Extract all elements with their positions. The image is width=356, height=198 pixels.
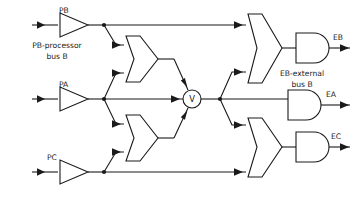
or-gate-top-group (126, 36, 188, 90)
wire-merge-to-or-ec (220, 99, 246, 125)
arrowhead-or-ec-in1 (234, 121, 243, 129)
label-pc: PC (47, 153, 57, 162)
arrowhead-merge-in3 (181, 111, 188, 120)
label-ea: EA (326, 90, 337, 99)
buffer-pc (60, 160, 88, 184)
and-gate-ec (296, 132, 329, 162)
and-gate-eb (296, 33, 329, 63)
arrowhead-eb-out (340, 44, 349, 52)
label-ec: EC (331, 132, 341, 141)
or-gate-bottom (126, 115, 158, 161)
arrowhead-or-eb-in1 (234, 21, 243, 29)
arrowhead-ec-out (340, 143, 349, 151)
arrowhead-or-bot-in2 (112, 148, 121, 156)
wire-pa-to-merge (104, 95, 183, 103)
label-pb-note-line2: bus B (46, 52, 67, 61)
wire-pb-diag (104, 25, 124, 45)
and-gate-ea (288, 90, 321, 120)
wire-pa-diag-down (104, 99, 124, 124)
wire-pc-to-or-ec (104, 168, 246, 176)
arrowhead-ea-out (340, 101, 349, 109)
wire-pc-to-or-bot (104, 148, 124, 172)
merge-node-v: V (183, 90, 201, 108)
and-gate-ea-group (288, 90, 350, 120)
buffer-pb (60, 13, 88, 37)
circuit-canvas: V PB PA (0, 0, 356, 198)
label-pa: PA (59, 80, 69, 89)
label-eb: EB (333, 33, 343, 42)
arrowhead-pb-input (37, 21, 45, 29)
arrowhead-or-top-in1 (112, 41, 121, 49)
label-eb-note-line1: EB-external (280, 69, 324, 78)
or-gate-eb (248, 14, 282, 83)
arrowhead-or-top-in2 (112, 69, 121, 77)
input-pb-group (32, 13, 106, 37)
input-pc-group (32, 160, 106, 184)
label-pb: PB (59, 6, 69, 15)
buffer-pa (60, 87, 88, 111)
arrowhead-pc-input (37, 168, 45, 176)
and-gate-ec-group (296, 132, 350, 162)
wire-merge-to-or-eb (220, 72, 246, 99)
wire-pb-to-or-top (104, 25, 124, 49)
logic-circuit-diagram: V PB PA (0, 0, 356, 198)
wire-pa-to-or-top (104, 69, 124, 99)
wire-pa-diag-up (104, 73, 124, 99)
arrowhead-pa-input (37, 95, 45, 103)
merge-output-fanout (201, 68, 288, 129)
arrowhead-merge-in2 (171, 95, 180, 103)
or-gate-bottom-group (126, 108, 188, 161)
wire-pb-to-or-eb (104, 21, 246, 29)
or-gate-ec (248, 118, 282, 177)
or-gate-top (126, 36, 158, 82)
merge-node-label: V (189, 94, 195, 104)
arrowhead-or-bot-in1 (112, 120, 121, 128)
wire-pa-to-or-bot (104, 99, 124, 128)
label-eb-note-line2: bus B (291, 80, 312, 89)
input-pa-group (32, 87, 106, 111)
arrowhead-or-eb-in2 (234, 68, 243, 76)
arrowhead-or-ec-in2 (234, 168, 243, 176)
wire-pc-diag-up (104, 152, 124, 172)
arrowhead-merge-in1 (181, 78, 188, 87)
label-pb-note-line1: PB-processor (32, 41, 82, 50)
or-gate-ec-group (248, 118, 296, 177)
